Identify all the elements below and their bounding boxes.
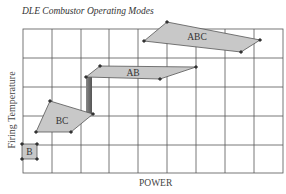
region-bc: BC	[36, 101, 93, 132]
grid	[23, 29, 283, 173]
transition-bar-bc-ab	[86, 77, 92, 114]
region-abc: ABC	[144, 22, 260, 52]
region-b-label: B	[26, 147, 32, 157]
region-bc-label: BC	[56, 116, 69, 126]
region-ab-label: AB	[126, 68, 139, 78]
operating-modes-diagram: B BC AB ABC	[0, 0, 286, 194]
region-b: B	[22, 144, 37, 159]
region-ab: AB	[86, 66, 196, 79]
region-abc-label: ABC	[187, 32, 207, 42]
